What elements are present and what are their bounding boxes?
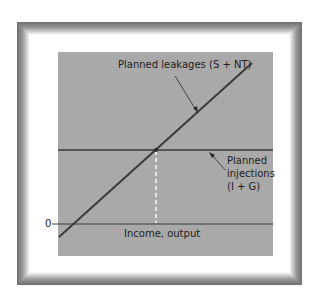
equilibrium-point — [154, 148, 158, 152]
injections-label-line1: Planned — [227, 155, 267, 167]
plot-area — [58, 52, 273, 256]
injections-label-line3: (I + G) — [227, 181, 260, 193]
chart — [0, 0, 318, 297]
injections-label-line2: injections — [227, 168, 275, 180]
leakages-label: Planned leakages (S + NT) — [118, 59, 251, 71]
leakages-label-text: Planned leakages (S + NT) — [118, 59, 251, 70]
x-axis-label: Income, output — [124, 228, 200, 240]
y-zero-tick-label: 0 — [45, 218, 51, 230]
